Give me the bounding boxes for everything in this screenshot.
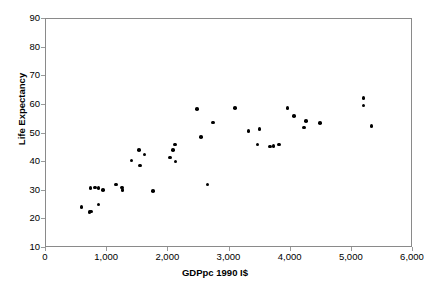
data-point bbox=[97, 203, 101, 207]
data-point bbox=[97, 186, 101, 190]
y-tick-label: 90 bbox=[0, 13, 40, 23]
data-point bbox=[80, 205, 84, 209]
y-tick-label: 20 bbox=[0, 213, 40, 223]
data-point bbox=[171, 148, 175, 152]
x-tick-label: 2,000 bbox=[137, 252, 197, 262]
data-point bbox=[304, 119, 308, 123]
data-point bbox=[173, 143, 177, 147]
x-tick-mark bbox=[412, 247, 413, 251]
x-tick-mark bbox=[45, 247, 46, 251]
x-tick-mark bbox=[351, 247, 352, 251]
data-points-layer bbox=[46, 19, 411, 246]
scatter-chart-figure: Life Expectancy 102030405060708090 01,00… bbox=[0, 0, 430, 288]
data-point bbox=[277, 143, 281, 147]
x-tick-label: 0 bbox=[15, 252, 75, 262]
x-tick-label: 3,000 bbox=[199, 252, 259, 262]
data-point bbox=[362, 104, 366, 108]
data-point bbox=[168, 156, 172, 160]
x-tick-label: 4,000 bbox=[260, 252, 320, 262]
data-point bbox=[292, 114, 296, 118]
data-point bbox=[233, 106, 237, 110]
data-point bbox=[101, 188, 105, 192]
data-point bbox=[256, 143, 260, 147]
y-tick-label: 30 bbox=[0, 185, 40, 195]
x-tick-label: 5,000 bbox=[321, 252, 381, 262]
data-point bbox=[195, 107, 199, 111]
data-point bbox=[174, 160, 178, 164]
y-tick-label: 40 bbox=[0, 156, 40, 166]
data-point bbox=[199, 135, 203, 139]
data-point bbox=[137, 148, 141, 152]
x-tick-label: 6,000 bbox=[382, 252, 430, 262]
data-point bbox=[362, 96, 366, 100]
y-tick-label: 10 bbox=[0, 242, 40, 252]
data-point bbox=[138, 164, 142, 168]
y-tick-label: 60 bbox=[0, 99, 40, 109]
data-point bbox=[302, 126, 306, 130]
y-tick-label: 70 bbox=[0, 70, 40, 80]
data-point bbox=[318, 121, 322, 125]
x-tick-mark bbox=[290, 247, 291, 251]
data-point bbox=[89, 186, 93, 190]
data-point bbox=[247, 129, 251, 133]
data-point bbox=[89, 210, 93, 214]
y-tick-label: 50 bbox=[0, 128, 40, 138]
data-point bbox=[130, 159, 134, 163]
data-point bbox=[211, 121, 215, 125]
data-point bbox=[286, 106, 290, 110]
data-point bbox=[114, 183, 118, 187]
data-point bbox=[206, 183, 210, 187]
x-tick-label: 1,000 bbox=[76, 252, 136, 262]
data-point bbox=[151, 189, 155, 193]
x-tick-mark bbox=[229, 247, 230, 251]
plot-area bbox=[45, 18, 412, 247]
y-tick-label: 80 bbox=[0, 42, 40, 52]
x-tick-mark bbox=[167, 247, 168, 251]
data-point bbox=[272, 144, 276, 148]
y-axis-label: Life Expectancy bbox=[17, 49, 27, 169]
x-axis-label: GDPpc 1990 I$ bbox=[0, 268, 430, 278]
data-point bbox=[121, 188, 125, 192]
data-point bbox=[258, 127, 262, 131]
data-point bbox=[370, 124, 374, 128]
data-point bbox=[143, 153, 147, 157]
x-tick-mark bbox=[106, 247, 107, 251]
